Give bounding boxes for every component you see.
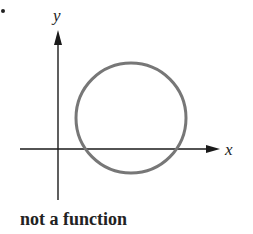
circle-curve (76, 63, 186, 173)
x-axis-label: x (224, 140, 233, 159)
bullet-marker (1, 9, 5, 13)
graph: x y (0, 0, 253, 234)
y-axis-label: y (51, 6, 61, 25)
y-axis-arrow-icon (54, 30, 62, 45)
x-axis-arrow-icon (206, 145, 220, 153)
caption: not a function (20, 209, 127, 230)
